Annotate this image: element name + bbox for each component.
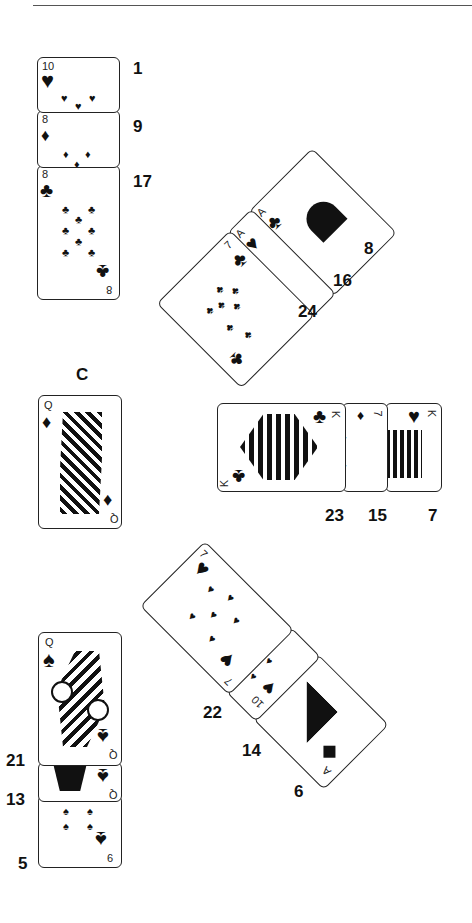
position-label: 14 [242, 742, 261, 759]
clubs-pip-icon: ♣ [230, 300, 243, 313]
position-label: 24 [298, 303, 317, 320]
clubs-pip-icon: ♣ [203, 304, 216, 317]
spades-pip-icon: ♠ [87, 821, 93, 832]
spades-icon: ♠ [95, 828, 107, 850]
clubs-pip-icon: ♣ [229, 284, 242, 297]
hearts-pip-icon: ♥ [207, 609, 219, 621]
crest-icon [51, 681, 73, 703]
card-rank: K [426, 410, 437, 417]
card-queen-diamonds: Q ♦ ♦ Q [38, 395, 122, 529]
position-label: 21 [6, 752, 25, 769]
diamonds-icon: ♦ [42, 413, 51, 431]
hearts-icon: ♥ [408, 406, 420, 426]
spades-pip-icon: ♠ [63, 806, 69, 817]
position-label: 22 [203, 704, 222, 721]
position-label: 9 [133, 118, 142, 135]
spades-icon: ♠ [97, 765, 109, 787]
diamonds-icon: ♦ [103, 492, 112, 510]
clubs-pip-icon: ♣ [75, 214, 82, 225]
card-rank: A [320, 764, 333, 777]
hearts-icon: ♥ [41, 70, 54, 92]
diamonds-pip-icon: ♦ [63, 149, 69, 160]
clubs-pip-icon: ♣ [62, 247, 69, 258]
hearts-pip-icon: ♥ [89, 93, 96, 104]
position-label: 15 [368, 507, 387, 524]
clubs-pip-icon: ♣ [62, 225, 69, 236]
spades-icon: ♠ [43, 649, 55, 671]
clubs-icon: ♣ [313, 406, 326, 426]
position-label: 1 [133, 60, 142, 77]
clubs-pip-icon: ♣ [88, 225, 95, 236]
card-rank: Q [109, 749, 118, 760]
hearts-pip-icon: ♥ [224, 592, 236, 604]
clubs-pip-icon: ♣ [215, 298, 228, 311]
hearts-pip-icon: ♥ [186, 610, 198, 622]
crest-icon [87, 699, 109, 721]
top-rule [33, 5, 472, 6]
hearts-pip-icon: ♥ [230, 615, 242, 627]
card-king-clubs: K ♣ ♣ K [217, 403, 346, 492]
hearts-pip-icon: ♥ [75, 101, 82, 112]
diamonds-pip-icon: ♦ [85, 149, 91, 160]
hearts-icon: ♥ [189, 557, 214, 582]
diamonds-icon: ♦ [357, 408, 364, 422]
hearts-pip-icon: ♥ [206, 633, 218, 645]
position-label: 7 [428, 507, 437, 524]
diamonds-pip-icon: ♦ [74, 159, 80, 168]
card-rank: Q [44, 400, 53, 411]
spades-pip-icon: ♠ [63, 821, 69, 832]
card-queen-spades: ♠ Q [38, 762, 122, 802]
clubs-icon: ♣ [226, 348, 249, 371]
card-king-hearts: K ♥ [385, 403, 442, 492]
clubs-pip-icon: ♣ [213, 283, 226, 296]
spades-pip-icon: ♠ [87, 806, 93, 817]
clubs-pip-icon: ♣ [88, 204, 95, 215]
clubs-icon: ♣ [96, 262, 109, 282]
clubs-pip-icon: ♣ [223, 321, 236, 334]
hearts-pip-icon: ♥ [204, 583, 216, 595]
card-rank: 8 [42, 114, 48, 125]
clubs-pip-icon: ♣ [88, 247, 95, 258]
clubs-icon: ♣ [40, 180, 53, 200]
king-face-art [386, 430, 422, 478]
card-6-spades: ♠ ♠ ♠ ♠ ♠ 6 [38, 795, 122, 868]
position-label: 5 [18, 855, 27, 872]
position-label: 8 [364, 240, 373, 257]
position-label: 16 [333, 272, 352, 289]
king-face-art [240, 414, 318, 480]
card-10-hearts: 10 ♥ ♥ ♥ ♥ [37, 57, 120, 113]
card-8-diamonds: 8 ♦ ♦ ♦ ♦ [37, 110, 120, 168]
spades-icon: ♠ [97, 725, 109, 747]
clubs-center-icon [299, 195, 347, 243]
position-label: 13 [6, 791, 25, 808]
card-rank: Q [110, 513, 119, 524]
clubs-pip-icon: ♣ [75, 236, 82, 247]
card-rank: 8 [106, 284, 112, 295]
queen-face-art [51, 412, 111, 514]
queen-face-art [53, 763, 87, 791]
card-7-diamonds: 7 ♦ ♦ ♦ [342, 403, 388, 492]
card-rank: K [330, 411, 341, 418]
clubs-icon: ♣ [227, 248, 250, 271]
position-label: 6 [294, 783, 303, 800]
position-label: 17 [133, 173, 152, 190]
card-rank: 6 [107, 853, 113, 864]
hearts-pip-icon: ♥ [61, 93, 68, 104]
card-rank: Q [109, 789, 118, 800]
card-rank: 7 [223, 675, 235, 687]
hearts-icon: ♥ [257, 677, 280, 700]
card-8-clubs: 8 ♣ ♣ ♣ ♣ ♣ ♣ ♣ ♣ ♣ ♣ 8 [37, 165, 120, 300]
diamonds-icon: ♦ [41, 127, 50, 144]
position-label: 23 [325, 507, 344, 524]
clubs-icon: ♣ [232, 467, 245, 487]
diamonds-icon [323, 746, 335, 758]
card-rank: 7 [372, 410, 383, 416]
position-label: C [76, 366, 88, 383]
hearts-icon: ♥ [215, 647, 240, 672]
clubs-pip-icon: ♣ [241, 328, 254, 341]
card-rank: K [219, 480, 230, 487]
card-queen-spades: Q ♠ ♠ Q [38, 632, 122, 766]
clubs-pip-icon: ♣ [62, 204, 69, 215]
